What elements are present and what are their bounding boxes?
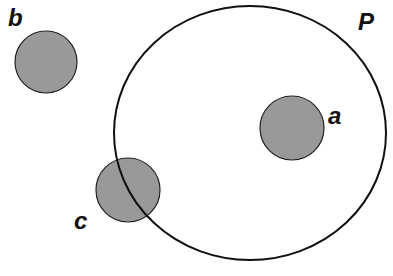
circle-a [260,96,324,160]
region-p-boundary [114,6,386,260]
circle-b [15,31,77,93]
set-diagram: P abc [0,0,393,276]
circle-a-label: a [328,102,341,129]
circle-c-label: c [74,207,87,234]
circle-b-label: b [8,4,23,31]
region-p-label: P [358,8,375,35]
